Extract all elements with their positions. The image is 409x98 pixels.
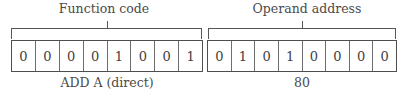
bit-cell: 1	[279, 41, 303, 71]
bracket-tick-center	[107, 21, 108, 28]
bit-cell: 0	[255, 41, 279, 71]
bracket-bar	[11, 28, 202, 29]
bit-cell: 0	[350, 41, 374, 71]
byte-group-operand-address: 0 1 0 1 0 0 0 0	[207, 40, 397, 72]
bit-cell: 0	[373, 41, 396, 71]
bit-cell: 0	[303, 41, 327, 71]
bit-cell: 0	[155, 41, 179, 71]
bracket-function-code	[11, 28, 202, 40]
bracket-bar	[208, 28, 396, 29]
bit-cell: 0	[12, 41, 36, 71]
bracket-tick-left	[208, 28, 209, 39]
bit-cell: 0	[131, 41, 155, 71]
bit-cell: 0	[84, 41, 108, 71]
bit-cell: 1	[232, 41, 256, 71]
bit-cell: 0	[208, 41, 232, 71]
bracket-tick-center	[302, 21, 303, 28]
bit-cell: 0	[36, 41, 60, 71]
field-caption-operand-address: 80	[207, 75, 397, 90]
field-caption-function-code: ADD A (direct)	[11, 75, 203, 90]
byte-group-function-code: 0 0 0 0 1 0 0 1	[11, 40, 203, 72]
bracket-tick-right	[201, 28, 202, 39]
bit-cell: 0	[326, 41, 350, 71]
bracket-operand-address	[208, 28, 396, 40]
field-label-function-code: Function code	[0, 1, 208, 16]
bracket-tick-left	[11, 28, 12, 39]
instruction-format-diagram: Function code Operand address 0 0 0 0 1 …	[0, 0, 409, 98]
bracket-tick-right	[395, 28, 396, 39]
field-label-operand-address: Operand address	[205, 1, 409, 16]
bit-cell: 1	[108, 41, 132, 71]
bit-cell: 1	[179, 41, 202, 71]
bit-cell: 0	[60, 41, 84, 71]
